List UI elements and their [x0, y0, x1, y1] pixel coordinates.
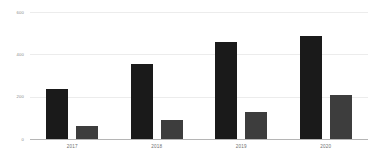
bar-group: [284, 12, 368, 139]
bar-group: [115, 12, 200, 139]
x-axis-line: [30, 139, 368, 140]
bar: [245, 112, 267, 139]
bar-groups: [30, 12, 368, 139]
bar: [215, 42, 237, 139]
x-axis-category-label: 2020: [284, 143, 368, 153]
y-axis-tick-label: 400: [0, 52, 24, 57]
y-axis-tick-label: 600: [0, 10, 24, 15]
x-axis-category-label: 2018: [115, 143, 200, 153]
bar: [76, 126, 98, 139]
bar-group: [30, 12, 115, 139]
bar: [161, 120, 183, 139]
bar: [131, 64, 153, 139]
bar-group: [199, 12, 284, 139]
y-axis-tick-label: 0: [0, 137, 24, 142]
x-axis-category-label: 2019: [199, 143, 284, 153]
x-axis-category-label: 2017: [30, 143, 115, 153]
bar: [300, 36, 322, 139]
bar: [330, 95, 352, 139]
bar: [46, 89, 68, 139]
bar-chart: 0200400600 2017201820192020: [0, 0, 368, 156]
y-axis-tick-label: 200: [0, 94, 24, 99]
x-axis-category-labels: 2017201820192020: [30, 143, 368, 153]
